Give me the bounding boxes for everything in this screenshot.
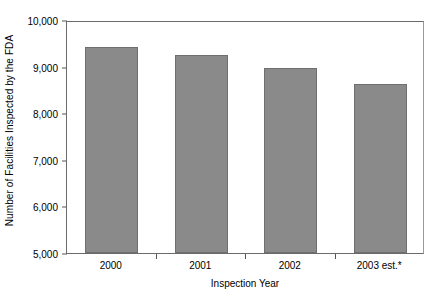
- y-axis-tick-label: 5,000: [14, 249, 58, 260]
- y-axis-tick-label: 8,000: [14, 109, 58, 120]
- y-axis-tick-label: 6,000: [14, 202, 58, 213]
- bar: [264, 68, 317, 253]
- y-axis-tick-label: 9,000: [14, 62, 58, 73]
- x-axis-tick-mark: [335, 254, 336, 259]
- x-axis-tick-label: 2000: [100, 260, 122, 271]
- x-axis-tick-mark: [156, 254, 157, 259]
- bars-layer: [67, 22, 423, 253]
- x-axis-tick-label: 2003 est.*: [357, 260, 402, 271]
- y-axis-tick-label: 7,000: [14, 155, 58, 166]
- bar: [175, 55, 228, 253]
- x-axis-tick-mark: [245, 254, 246, 259]
- x-axis-title: Inspection Year: [66, 278, 424, 289]
- bar: [85, 47, 138, 253]
- y-axis-tick-labels: 5,0006,0007,0008,0009,00010,000: [14, 0, 58, 303]
- bar-chart: Number of Facilities Inspected by the FD…: [0, 0, 437, 303]
- y-axis-tick-label: 10,000: [14, 16, 58, 27]
- x-axis-tick-label: 2002: [279, 260, 301, 271]
- plot-area: [66, 21, 424, 254]
- bar: [354, 84, 407, 253]
- x-axis-tick-label: 2001: [189, 260, 211, 271]
